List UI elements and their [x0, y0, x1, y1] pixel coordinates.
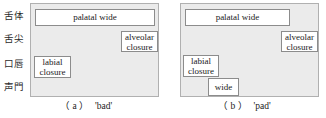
caption-a: （ a ）'bad': [60, 100, 112, 112]
gesture-labial-closure-a: labial closure: [34, 56, 71, 78]
row-label-glottis: 声門: [4, 81, 30, 92]
gesture-label: palatal wide: [37, 12, 153, 23]
gesture-labial-closure-b: labial closure: [183, 55, 219, 77]
gesture-palatal-wide-b: palatal wide: [185, 9, 290, 26]
row-label-tongue-body: 舌体: [4, 10, 30, 21]
gesture-label: labial closure: [185, 56, 217, 76]
caption-b-tag: （ b ）: [218, 101, 248, 111]
caption-a-tag: （ a ）: [60, 101, 89, 111]
gesture-label: alveolar closure: [283, 32, 316, 52]
gesture-label: alveolar closure: [123, 32, 156, 52]
gestural-score-figure: 舌体 舌尖 口唇 声門 palatal wide alveolar closur…: [0, 0, 326, 118]
caption-b-word: 'pad': [254, 101, 271, 111]
gesture-label: labial closure: [36, 57, 69, 77]
caption-b: （ b ）'pad': [218, 100, 271, 112]
gesture-glottal-wide-b: wide: [208, 78, 239, 96]
row-label-tongue-tip: 舌尖: [4, 33, 30, 44]
row-label-lips: 口唇: [4, 58, 30, 69]
gesture-label: palatal wide: [187, 12, 288, 23]
panel-b-pad: palatal wide alveolar closure labial clo…: [180, 3, 319, 97]
gesture-palatal-wide-a: palatal wide: [35, 9, 155, 26]
gesture-alveolar-closure-b: alveolar closure: [281, 31, 318, 52]
gesture-label: wide: [210, 82, 237, 93]
panel-a-bad: palatal wide alveolar closure labial clo…: [30, 3, 159, 97]
caption-a-word: 'bad': [95, 101, 112, 111]
gesture-alveolar-closure-a: alveolar closure: [121, 31, 158, 52]
